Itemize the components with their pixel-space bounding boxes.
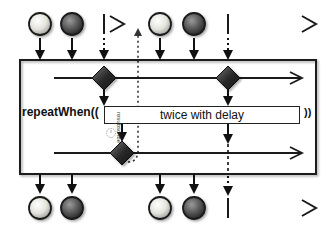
marble-dark — [61, 197, 83, 219]
output-timeline — [20, 197, 316, 219]
marble-dark — [61, 13, 83, 35]
marble-dark — [183, 197, 205, 219]
resubscribe-label: resubscribe — [116, 112, 122, 143]
marble-light — [149, 13, 171, 35]
marble-light — [29, 197, 51, 219]
marble-light — [29, 13, 51, 35]
marble-light — [149, 197, 171, 219]
operator-label: repeatWhen(( — [22, 105, 99, 119]
output-arrows — [35, 174, 233, 196]
input-arrows — [35, 38, 233, 60]
notifier-label: twice with delay — [160, 108, 244, 122]
source-timeline — [20, 13, 316, 35]
marble-dark — [183, 13, 205, 35]
operator-close-label: )) — [304, 106, 311, 118]
marble-diagram: repeatWhen(( twice with delay )) resubsc… — [0, 0, 332, 235]
